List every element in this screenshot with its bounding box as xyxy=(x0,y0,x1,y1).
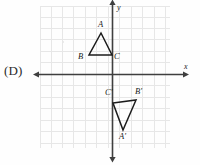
vertex-label-c-prime: C' xyxy=(105,88,113,97)
triangle-a-prime-b-prime-c-prime xyxy=(113,100,136,130)
x-axis-label: x xyxy=(184,63,188,71)
vertex-label-a-prime: A' xyxy=(119,132,126,141)
triangle-abc xyxy=(89,33,112,55)
y-axis xyxy=(109,0,115,163)
vertex-label-b-prime: B' xyxy=(135,87,142,96)
y-axis-label: y xyxy=(117,4,121,12)
x-axis xyxy=(33,71,189,77)
vertex-label-b: B xyxy=(78,52,83,61)
vertex-label-a: A xyxy=(98,20,103,29)
answer-choice-label: (D) xyxy=(4,63,23,79)
vertex-label-c: C xyxy=(114,52,120,61)
coordinate-plane-figure: (D) y x A B C C' B' A' xyxy=(0,0,200,165)
